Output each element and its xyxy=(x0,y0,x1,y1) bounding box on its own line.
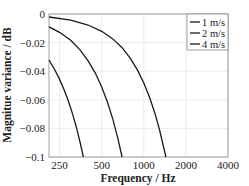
y-tick-label: −0.08 xyxy=(20,122,46,134)
y-axis-ticks: 0−0.02−0.04−0.06−0.08−0.1 xyxy=(20,8,46,163)
x-tick-label: 4000 xyxy=(217,159,240,171)
x-tick-label: 1000 xyxy=(133,159,156,171)
y-axis-label: Magnitue variance / dB xyxy=(1,27,14,143)
series-line xyxy=(49,60,83,157)
legend-label: 2 m/s xyxy=(202,28,225,39)
x-tick-label: 2000 xyxy=(175,159,198,171)
y-tick-label: −0.02 xyxy=(20,37,45,49)
y-tick-label: −0.1 xyxy=(25,151,45,163)
y-tick-label: −0.06 xyxy=(20,94,46,106)
x-tick-label: 250 xyxy=(51,159,68,171)
series-line xyxy=(49,27,122,157)
x-axis-label: Frequency / Hz xyxy=(100,172,175,185)
data-series xyxy=(49,17,166,157)
line-chart: 0−0.02−0.04−0.06−0.08−0.1 25050010002000… xyxy=(0,0,249,186)
legend: 1 m/s2 m/s4 m/s xyxy=(187,14,228,50)
y-tick-label: −0.04 xyxy=(20,65,46,77)
y-tick-label: 0 xyxy=(40,8,46,20)
legend-label: 1 m/s xyxy=(202,17,225,28)
legend-label: 4 m/s xyxy=(202,39,225,50)
x-axis-ticks: 250500100020004000 xyxy=(51,159,239,171)
x-tick-label: 500 xyxy=(93,159,110,171)
